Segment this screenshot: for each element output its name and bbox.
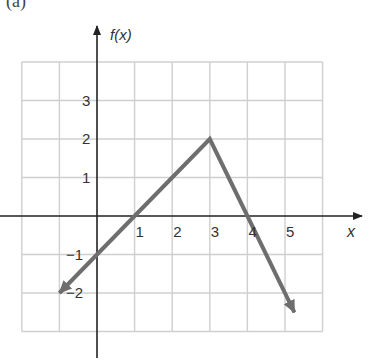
plot-area — [0, 0, 373, 361]
y-tick-label: 3 — [82, 93, 90, 108]
x-tick-label: 4 — [248, 224, 256, 239]
x-tick-label: 2 — [173, 224, 181, 239]
x-axis-label: x — [347, 224, 355, 240]
y-axis-label: f(x) — [110, 27, 132, 42]
y-tick-label: −2 — [66, 285, 83, 300]
y-tick-label: 2 — [82, 131, 90, 146]
y-tick-label: 1 — [82, 170, 90, 185]
y-tick-label: −1 — [66, 247, 83, 262]
x-tick-label: 3 — [211, 224, 219, 239]
x-tick-label: 1 — [136, 224, 144, 239]
x-tick-label: 5 — [286, 224, 294, 239]
